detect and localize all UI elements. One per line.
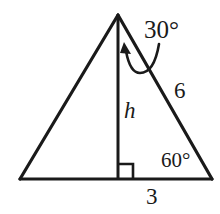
base-length-label: 3 xyxy=(146,185,158,208)
height-label: h xyxy=(124,99,136,122)
arrowhead-icon xyxy=(120,42,131,54)
right-angle-marker xyxy=(118,164,133,179)
base-angle-label: 60° xyxy=(161,150,190,171)
geometry-figure: 30° 60° 6 3 h xyxy=(0,0,220,214)
hypotenuse-length-label: 6 xyxy=(174,79,186,102)
triangle-left-side xyxy=(20,15,118,179)
triangle-diagram-svg xyxy=(0,0,220,214)
apex-angle-label: 30° xyxy=(144,17,179,42)
